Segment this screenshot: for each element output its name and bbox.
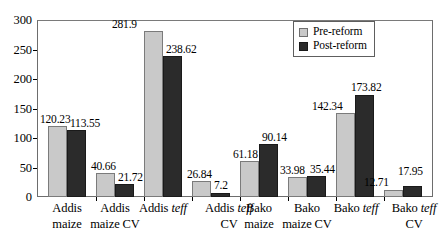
bar-post-reform bbox=[211, 193, 230, 197]
bar-pre-reform bbox=[384, 190, 403, 198]
bar-value-label: 90.14 bbox=[262, 132, 287, 144]
bar-value-label: 35.44 bbox=[310, 164, 335, 176]
legend-swatch-icon bbox=[299, 42, 308, 51]
x-category-word-italic: teff bbox=[171, 201, 187, 215]
bar-value-label: 40.66 bbox=[91, 161, 116, 173]
x-category-word-italic: teff bbox=[421, 201, 437, 215]
x-category-label: Addis teff bbox=[125, 201, 201, 217]
bar-pre-reform bbox=[336, 113, 355, 197]
bar-value-label: 61.18 bbox=[233, 149, 258, 161]
bar-pre-reform bbox=[288, 177, 307, 197]
bar-group: 12.71 17.95 bbox=[384, 20, 422, 197]
legend-item-pre-reform: Pre-reform bbox=[299, 25, 367, 39]
bar-group: 40.66 21.72 bbox=[96, 20, 134, 197]
y-tick-label: 100 bbox=[14, 132, 32, 145]
bar-group: 120.23 113.55 bbox=[48, 20, 86, 197]
bar-value-label: 7.2 bbox=[214, 180, 228, 192]
bar-pre-reform bbox=[144, 31, 163, 197]
bar-post-reform bbox=[115, 184, 134, 197]
bar-chart: 300 250 200 150 100 50 0 120.23 113.55 4… bbox=[0, 0, 448, 249]
bar-group: 281.9 238.62 bbox=[144, 20, 182, 197]
bar-post-reform bbox=[403, 186, 422, 197]
x-category-line2: maize CV bbox=[79, 217, 151, 233]
bar-pre-reform bbox=[240, 161, 259, 197]
legend-label: Pre-reform bbox=[313, 26, 362, 38]
x-category-word: Bako bbox=[392, 201, 421, 215]
y-tick-label: 250 bbox=[14, 44, 32, 57]
bar-value-label: 142.34 bbox=[312, 101, 342, 113]
bar-post-reform bbox=[307, 176, 326, 197]
bar-value-label: 33.98 bbox=[280, 165, 305, 177]
bar-value-label: 173.82 bbox=[351, 82, 381, 94]
bar-group: 26.84 7.2 bbox=[192, 20, 230, 197]
legend-swatch-icon bbox=[299, 28, 308, 37]
x-category-word: Bako bbox=[334, 201, 363, 215]
bar-value-label: 21.72 bbox=[118, 172, 143, 184]
bar-post-reform bbox=[67, 130, 86, 197]
bar-group: 61.18 90.14 bbox=[240, 20, 278, 197]
x-category-line1: Bako teff bbox=[377, 201, 448, 217]
legend-item-post-reform: Post-reform bbox=[299, 39, 367, 53]
x-category-word: Addis bbox=[139, 201, 171, 215]
x-category-line2: CV bbox=[377, 217, 448, 233]
bar-post-reform bbox=[163, 56, 182, 197]
bar-value-label: 12.71 bbox=[364, 177, 389, 189]
x-category-label: Bako teff CV bbox=[377, 201, 448, 232]
y-tick-label: 50 bbox=[20, 162, 32, 175]
bar-value-label: 281.9 bbox=[112, 19, 137, 31]
bar-value-label: 26.84 bbox=[187, 169, 212, 181]
x-category-line1: Addis teff bbox=[125, 201, 201, 217]
legend-label: Post-reform bbox=[313, 40, 367, 52]
y-tick-label: 200 bbox=[14, 73, 32, 86]
bar-pre-reform bbox=[192, 181, 211, 197]
x-category-line2: maize CV bbox=[271, 217, 343, 233]
legend: Pre-reform Post-reform bbox=[293, 21, 375, 57]
y-tick-label: 300 bbox=[14, 14, 32, 27]
bar-value-label: 120.23 bbox=[40, 114, 70, 126]
bar-value-label: 17.95 bbox=[398, 166, 423, 178]
x-category-word-italic: teff bbox=[363, 201, 379, 215]
x-axis-labels: Addis maize Addis maize CV Addis teff Ad… bbox=[37, 201, 433, 245]
bar-pre-reform bbox=[48, 126, 67, 197]
bar-pre-reform bbox=[96, 173, 115, 197]
bar-post-reform bbox=[259, 144, 278, 197]
y-tick-label: 150 bbox=[14, 103, 32, 116]
